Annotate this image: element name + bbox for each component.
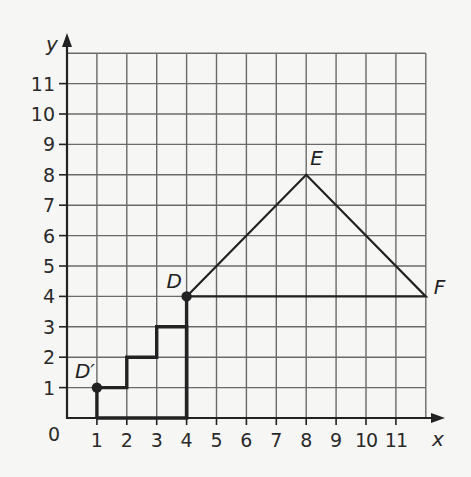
y-tick-label: 4 (43, 285, 55, 307)
y-tick-label: 7 (43, 194, 55, 216)
x-axis-label: x (431, 427, 444, 451)
x-tick-label: 8 (300, 429, 312, 451)
y-tick-label: 2 (43, 346, 55, 368)
y-axis-arrow-icon (62, 33, 72, 47)
point-label: E (310, 146, 323, 170)
x-tick-label: 11 (385, 429, 407, 451)
point-dot-icon (181, 291, 191, 301)
point-dot-icon (92, 382, 102, 392)
coordinate-plane: 12345678910111234567891011 DEFD′ y x 0 (0, 0, 471, 477)
staircase-shape (97, 327, 187, 418)
y-tick-label: 8 (43, 164, 55, 186)
x-tick-label: 9 (330, 429, 342, 451)
y-tick-label: 3 (43, 316, 55, 338)
y-tick-label: 11 (31, 73, 55, 95)
x-tick-label: 3 (151, 429, 163, 451)
x-tick-label: 10 (355, 429, 377, 451)
x-tick-label: 4 (181, 429, 193, 451)
x-tick-label: 6 (240, 429, 252, 451)
y-tick-label: 6 (43, 225, 55, 247)
coordinate-grid-svg: 12345678910111234567891011 DEFD′ y x 0 (0, 0, 471, 477)
tick-labels: 12345678910111234567891011 (31, 73, 407, 451)
point-label: D′ (75, 359, 95, 383)
y-tick-label: 10 (31, 103, 55, 125)
point-label: F (434, 275, 446, 299)
x-tick-label: 5 (210, 429, 222, 451)
y-tick-label: 1 (43, 377, 55, 399)
y-tick-label: 5 (43, 255, 55, 277)
y-axis-label: y (45, 32, 59, 56)
origin-label: 0 (48, 423, 60, 445)
x-tick-label: 2 (121, 429, 133, 451)
y-tick-label: 9 (43, 133, 55, 155)
x-tick-label: 1 (91, 429, 103, 451)
x-tick-label: 7 (270, 429, 282, 451)
point-label: D (167, 269, 182, 293)
x-axis-arrow-icon (431, 413, 445, 423)
